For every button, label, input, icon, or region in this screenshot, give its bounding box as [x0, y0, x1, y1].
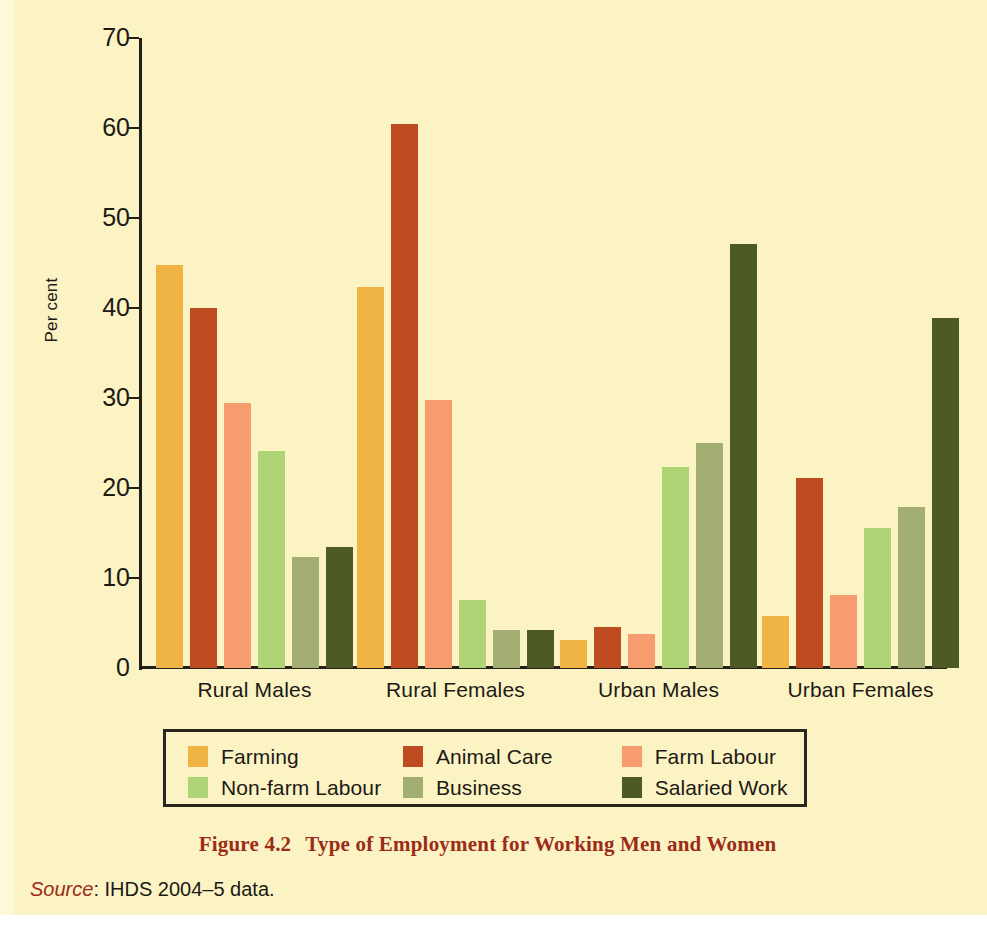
y-axis-tick-label: 60: [70, 115, 130, 140]
figure-caption: Figure 4.2Type of Employment for Working…: [0, 832, 975, 857]
y-axis-tick-label: 30: [70, 385, 130, 410]
bar[interactable]: [560, 640, 587, 668]
source-label: Source: [30, 878, 93, 900]
y-axis-tick-label: 40: [70, 295, 130, 320]
legend-label: Non-farm Labour: [221, 776, 381, 800]
y-axis-tick-mark: [128, 217, 139, 219]
bar[interactable]: [493, 630, 520, 668]
bar[interactable]: [796, 478, 823, 668]
bar[interactable]: [258, 451, 285, 668]
bar[interactable]: [830, 595, 857, 668]
legend-swatch-icon: [403, 746, 423, 767]
bar-group: [357, 38, 554, 668]
plot-area: [142, 38, 947, 668]
bar[interactable]: [459, 600, 486, 668]
bar[interactable]: [628, 634, 655, 668]
source-note: Source: IHDS 2004–5 data.: [30, 878, 275, 901]
legend-row: FarmingAnimal CareFarm Labour: [188, 741, 804, 772]
legend-swatch-icon: [188, 777, 208, 798]
bar[interactable]: [292, 557, 319, 668]
bar[interactable]: [190, 308, 217, 668]
legend: FarmingAnimal CareFarm LabourNon-farm La…: [163, 729, 807, 807]
legend-label: Business: [436, 776, 522, 800]
bar[interactable]: [425, 400, 452, 668]
bar[interactable]: [864, 528, 891, 668]
x-axis-tick-label: Urban Females: [751, 678, 971, 702]
y-axis-tick-label: 20: [70, 475, 130, 500]
legend-label: Farm Labour: [655, 745, 776, 769]
legend-swatch-icon: [188, 746, 208, 767]
bar[interactable]: [357, 287, 384, 668]
legend-item[interactable]: Salaried Work: [622, 776, 804, 800]
bar-chart: Per cent 010203040506070 Rural MalesRura…: [0, 0, 987, 700]
bar[interactable]: [696, 443, 723, 668]
bar[interactable]: [898, 507, 925, 668]
bar[interactable]: [730, 244, 757, 668]
bar[interactable]: [662, 467, 689, 668]
legend-label: Animal Care: [436, 745, 553, 769]
legend-item[interactable]: Farm Labour: [622, 745, 804, 769]
legend-swatch-icon: [622, 777, 642, 798]
x-axis-tick-label: Urban Males: [549, 678, 769, 702]
bar-group: [560, 38, 757, 668]
bar[interactable]: [932, 318, 959, 668]
y-axis-tick-mark: [128, 397, 139, 399]
legend-label: Farming: [221, 745, 299, 769]
y-axis-tick-mark: [128, 37, 139, 39]
y-axis-tick-mark: [128, 127, 139, 129]
y-axis-ticks: 010203040506070: [55, 0, 130, 700]
x-axis-tick-label: Rural Females: [346, 678, 566, 702]
bar[interactable]: [224, 403, 251, 668]
legend-item[interactable]: Farming: [188, 745, 403, 769]
legend-item[interactable]: Business: [403, 776, 622, 800]
bar[interactable]: [762, 616, 789, 668]
legend-item[interactable]: Animal Care: [403, 745, 622, 769]
figure-page: Per cent 010203040506070 Rural MalesRura…: [0, 0, 987, 937]
y-axis-tick-label: 50: [70, 205, 130, 230]
y-axis-tick-mark: [128, 577, 139, 579]
legend-label: Salaried Work: [655, 776, 788, 800]
page-bottom-edge: [0, 915, 987, 937]
figure-title: Type of Employment for Working Men and W…: [305, 832, 776, 856]
bar-group: [156, 38, 353, 668]
y-axis-tick-mark: [128, 487, 139, 489]
legend-swatch-icon: [403, 777, 423, 798]
bar[interactable]: [527, 630, 554, 668]
y-axis-tick-label: 0: [70, 655, 130, 680]
bar[interactable]: [391, 124, 418, 668]
bar[interactable]: [326, 547, 353, 668]
y-axis-tick-mark: [128, 307, 139, 309]
y-axis-tick-label: 70: [70, 25, 130, 50]
bar[interactable]: [156, 265, 183, 668]
bar[interactable]: [594, 627, 621, 668]
legend-item[interactable]: Non-farm Labour: [188, 776, 403, 800]
y-axis-tick-label: 10: [70, 565, 130, 590]
bar-group: [762, 38, 959, 668]
source-value: : IHDS 2004–5 data.: [93, 878, 274, 900]
figure-number: Figure 4.2: [199, 832, 292, 856]
legend-row: Non-farm LabourBusinessSalaried Work: [188, 772, 804, 803]
legend-swatch-icon: [622, 746, 642, 767]
x-axis-tick-label: Rural Males: [145, 678, 365, 702]
